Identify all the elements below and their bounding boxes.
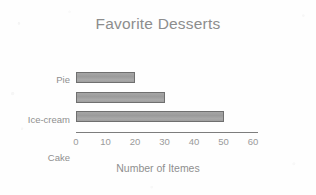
x-tick-label: 20	[120, 136, 150, 147]
bar-ice-cream	[76, 92, 165, 103]
x-tick-label: 30	[150, 136, 180, 147]
x-tick-label: 50	[209, 136, 239, 147]
bar-pie	[76, 72, 135, 83]
chart-title: Favorite Desserts	[0, 15, 316, 33]
category-label-ice-cream: Ice-cream	[10, 114, 70, 125]
bar-row: Pie	[76, 72, 135, 83]
bar-cake	[76, 111, 224, 122]
plot-area: Pie Ice-cream Cake	[76, 70, 253, 132]
x-axis-tick-labels: 0102030405060	[76, 136, 253, 150]
x-tick-label: 60	[238, 136, 268, 147]
category-label-pie: Pie	[10, 74, 70, 85]
x-tick-label: 0	[61, 136, 91, 147]
bar-row: Ice-cream	[76, 92, 165, 103]
x-tick-label: 10	[91, 136, 121, 147]
x-axis-title: Number of Itemes	[0, 162, 316, 174]
bar-row: Cake	[76, 111, 224, 122]
bar-chart: Favorite Desserts Pie Ice-cream Cake 010…	[0, 0, 316, 195]
x-tick-label: 40	[179, 136, 209, 147]
x-axis-line	[76, 132, 258, 133]
